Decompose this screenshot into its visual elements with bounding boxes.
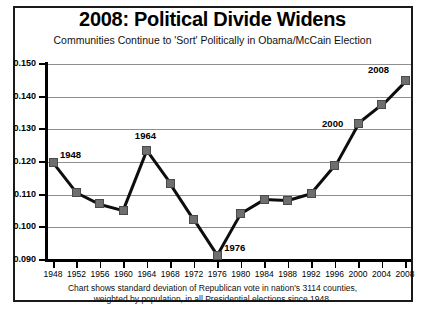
x-axis-tick-mark: [194, 261, 196, 268]
x-axis-tick-mark: [264, 261, 266, 268]
data-point-marker: [354, 119, 363, 128]
data-point-marker: [166, 179, 175, 188]
page-subtitle: Communities Continue to 'Sort' Political…: [0, 34, 425, 46]
y-axis-tick-label: 0.110: [0, 189, 36, 199]
y-axis-tick-label: 0.090: [0, 254, 36, 264]
x-axis-tick-mark: [311, 261, 313, 268]
data-point-marker: [236, 209, 245, 218]
y-axis-tick-label: 0.140: [0, 91, 36, 101]
data-point-label: 1976: [224, 242, 245, 253]
data-point-marker: [189, 215, 198, 224]
y-axis-tick-label: 0.100: [0, 221, 36, 231]
x-axis-tick-mark: [76, 261, 78, 268]
y-axis-tick-label: 0.120: [0, 156, 36, 166]
y-axis-tick-label: 0.130: [0, 123, 36, 133]
x-axis-tick-mark: [100, 261, 102, 268]
data-point-marker: [260, 195, 269, 204]
data-point-marker: [283, 196, 292, 205]
data-point-label: 1964: [135, 130, 156, 141]
x-axis-tick-mark: [382, 261, 384, 268]
x-axis-tick-mark: [123, 261, 125, 268]
x-axis-tick-mark: [288, 261, 290, 268]
x-axis-tick-mark: [241, 261, 243, 268]
data-point-marker: [72, 188, 81, 197]
x-axis-tick-mark: [147, 261, 149, 268]
x-axis-tick-mark: [335, 261, 337, 268]
x-axis-tick-mark: [217, 261, 219, 268]
page-title: 2008: Political Divide Widens: [0, 8, 425, 31]
x-axis-tick-mark: [170, 261, 172, 268]
data-point-label: 2008: [368, 64, 389, 75]
x-axis-tick-label: 2008: [390, 269, 420, 279]
data-point-label: 2000: [322, 118, 343, 129]
data-point-marker: [377, 100, 386, 109]
data-point-marker: [330, 161, 339, 170]
plot-area: 19481964197620002008: [47, 64, 411, 260]
footnote-line-1: Chart shows standard deviation of Republ…: [0, 283, 425, 294]
y-axis-tick-label: 0.150: [0, 58, 36, 68]
data-point-marker: [213, 251, 222, 260]
data-point-marker: [307, 189, 316, 198]
data-point-marker: [95, 199, 104, 208]
footnote: Chart shows standard deviation of Republ…: [0, 283, 425, 305]
data-point-marker: [142, 146, 151, 155]
data-point-marker: [401, 76, 410, 85]
data-point-label: 1948: [60, 149, 81, 160]
x-axis-tick-mark: [53, 261, 55, 268]
line-segment: [122, 150, 148, 210]
footnote-line-2: weighted by population, in all President…: [0, 294, 425, 305]
x-axis-tick-mark: [358, 261, 360, 268]
data-point-marker: [49, 158, 58, 167]
x-axis-tick-mark: [405, 261, 407, 268]
data-point-marker: [119, 206, 128, 215]
chart-screenshot: 2008: Political Divide Widens Communitie…: [0, 0, 425, 313]
